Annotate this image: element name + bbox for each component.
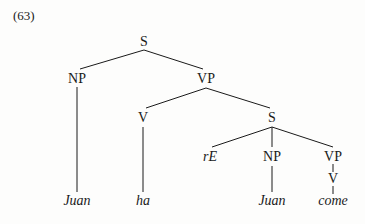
node-vp1: VP <box>197 72 215 86</box>
node-ha: ha <box>136 194 150 208</box>
node-np1: NP <box>68 72 86 86</box>
edge-s2-re <box>212 127 272 147</box>
edge-s2-vp2 <box>272 127 333 147</box>
node-re: rE <box>203 150 217 164</box>
node-come: come <box>318 194 348 208</box>
node-juan1: Juan <box>63 194 90 208</box>
edge-s_root-np1 <box>80 50 144 69</box>
node-np2: NP <box>263 150 281 164</box>
node-vp2: VP <box>324 150 342 164</box>
edge-s_root-vp1 <box>144 50 203 69</box>
node-v1: V <box>138 111 148 125</box>
edge-vp1-v1 <box>146 88 206 108</box>
node-s_root: S <box>140 35 148 49</box>
edge-vp1-s2 <box>206 88 270 108</box>
node-s2: S <box>268 111 276 125</box>
node-v2: V <box>328 172 338 186</box>
node-juan2: Juan <box>258 194 285 208</box>
tree-edges <box>0 0 365 224</box>
